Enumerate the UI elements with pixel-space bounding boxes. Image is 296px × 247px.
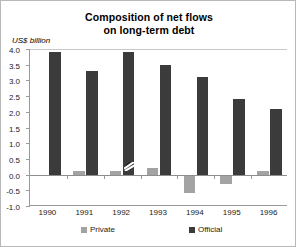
y-tick: 3.0 <box>26 80 30 81</box>
y-tick: 2.5 <box>26 96 30 97</box>
legend-swatch-official <box>189 227 195 233</box>
y-tick: -0.5 <box>26 190 30 191</box>
legend-label-private: Private <box>90 225 115 234</box>
y-tick-label: 2.0 <box>9 108 20 117</box>
chart-figure: Composition of net flows on long-term de… <box>0 0 296 247</box>
y-tick-label: 4.0 <box>9 46 20 55</box>
x-axis-label-1996: 1996 <box>260 208 278 217</box>
y-tick: 2.0 <box>26 112 30 113</box>
plot-inner: 4.03.53.02.52.01.51.00.50.0-0.5-1.0 <box>30 49 287 205</box>
x-axis-label-1991: 1991 <box>75 208 93 217</box>
bar-official-1990 <box>49 52 61 174</box>
gridline-top <box>30 49 287 50</box>
y-tick-label: 3.5 <box>9 61 20 70</box>
y-tick: 1.5 <box>26 128 30 129</box>
y-tick-label: 3.0 <box>9 77 20 86</box>
y-tick: 1.0 <box>26 143 30 144</box>
y-tick-label: 0.5 <box>9 155 20 164</box>
y-tick-label: 2.5 <box>9 93 20 102</box>
plot-area: 4.03.53.02.52.01.51.00.50.0-0.5-1.0 <box>29 49 287 206</box>
chart-legend: Private Official <box>29 225 287 239</box>
bar-private-1994 <box>184 175 196 194</box>
y-tick-label: -1.0 <box>6 203 20 212</box>
zero-baseline <box>30 175 287 176</box>
y-tick-label: 1.5 <box>9 124 20 133</box>
y-tick-label: 0.0 <box>9 171 20 180</box>
bar-official-1991 <box>86 71 98 175</box>
bar-official-1993 <box>160 65 172 175</box>
chart-title: Composition of net flows on long-term de… <box>1 11 296 37</box>
x-axis-label-1992: 1992 <box>112 208 130 217</box>
bar-official-1996 <box>270 109 282 175</box>
y-tick-label: -0.5 <box>6 187 20 196</box>
bar-official-1992 <box>123 52 135 174</box>
x-axis-labels: 1990199119921993199419951996 <box>29 208 287 222</box>
x-axis-label-1994: 1994 <box>186 208 204 217</box>
legend-label-official: Official <box>198 225 222 234</box>
legend-entry-private: Private <box>81 225 115 234</box>
x-axis-label-1990: 1990 <box>39 208 57 217</box>
y-tick-label: 1.0 <box>9 140 20 149</box>
bar-official-1994 <box>197 77 209 174</box>
y-axis-label: US$ billion <box>12 36 50 45</box>
x-axis-label-1995: 1995 <box>223 208 241 217</box>
y-tick: 3.5 <box>26 65 30 66</box>
bar-private-1995 <box>220 175 232 184</box>
chart-title-line-1: Composition of net flows <box>85 11 213 23</box>
legend-entry-official: Official <box>189 225 222 234</box>
legend-swatch-private <box>81 227 87 233</box>
y-tick: 4.0 <box>26 49 30 50</box>
x-axis-label-1993: 1993 <box>149 208 167 217</box>
y-tick: -1.0 <box>26 206 30 207</box>
bar-official-1995 <box>233 99 245 174</box>
y-tick: 0.5 <box>26 159 30 160</box>
